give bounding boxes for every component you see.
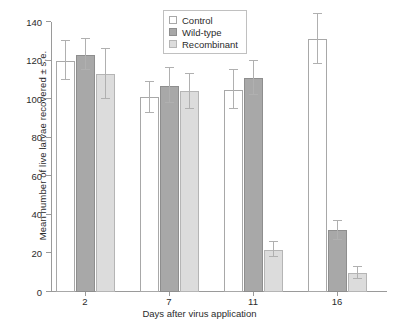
legend-label: Recombinant — [182, 39, 238, 50]
bar-control-day-16 — [308, 39, 327, 292]
error-bar-wildtype-day-7 — [169, 68, 170, 103]
error-cap — [81, 69, 90, 70]
error-bar-control-day-11 — [233, 70, 234, 109]
error-cap — [61, 40, 70, 41]
legend-swatch-icon — [169, 40, 177, 48]
y-tick: 20 — [46, 252, 51, 253]
error-bar-wildtype-day-11 — [253, 61, 254, 96]
error-cap — [313, 63, 322, 64]
y-tick: 140 — [46, 21, 51, 22]
error-cap — [185, 73, 194, 74]
bar-control-day-2 — [56, 61, 75, 292]
error-cap — [229, 69, 238, 70]
error-bar-control-day-2 — [65, 41, 66, 80]
x-tick-label: 11 — [248, 296, 258, 307]
legend-swatch-icon — [169, 16, 177, 24]
legend-item-wildtype: Wild-type — [169, 26, 238, 38]
legend: ControlWild-typeRecombinant — [163, 10, 247, 54]
error-cap — [249, 60, 258, 61]
bar-control-day-7 — [140, 97, 159, 292]
error-bar-control-day-16 — [317, 14, 318, 64]
legend-label: Control — [182, 15, 213, 26]
y-tick-label: 40 — [31, 209, 42, 220]
y-axis-spine — [51, 22, 52, 292]
bar-wildtype-day-2 — [76, 55, 95, 292]
legend-item-recombinant: Recombinant — [169, 38, 238, 50]
bar-recombinant-day-7 — [180, 91, 199, 292]
legend-item-control: Control — [169, 14, 238, 26]
y-tick-label: 20 — [31, 247, 42, 258]
error-cap — [269, 241, 278, 242]
error-bar-wildtype-day-2 — [85, 39, 86, 70]
y-tick: 100 — [46, 98, 51, 99]
y-tick-label: 80 — [31, 132, 42, 143]
error-cap — [145, 81, 154, 82]
error-cap — [185, 108, 194, 109]
error-cap — [333, 220, 342, 221]
error-bar-recombinant-day-11 — [273, 242, 274, 257]
error-cap — [353, 278, 362, 279]
y-tick: 60 — [46, 175, 51, 176]
legend-swatch-icon — [169, 28, 177, 36]
error-cap — [101, 98, 110, 99]
x-tick-label: 2 — [82, 296, 87, 307]
x-axis-title: Days after virus application — [0, 308, 399, 319]
error-cap — [81, 38, 90, 39]
y-tick-label: 0 — [37, 286, 42, 297]
y-tick: 120 — [46, 60, 51, 61]
plot-area: 020406080100120140 271116 — [51, 22, 387, 292]
x-tick-label: 16 — [332, 296, 343, 307]
error-cap — [229, 108, 238, 109]
bar-control-day-11 — [224, 90, 243, 293]
bar-wildtype-day-7 — [160, 86, 179, 292]
x-tick-label: 7 — [166, 296, 171, 307]
error-cap — [313, 13, 322, 14]
error-bar-recombinant-day-2 — [105, 49, 106, 99]
error-cap — [101, 48, 110, 49]
y-tick: 40 — [46, 214, 51, 215]
error-cap — [61, 79, 70, 80]
legend-label: Wild-type — [182, 27, 222, 38]
error-cap — [333, 239, 342, 240]
y-tick-label: 120 — [26, 55, 42, 66]
bar-wildtype-day-11 — [244, 78, 263, 292]
y-tick-label: 140 — [26, 16, 42, 27]
bar-chart-figure: Mean number of live larvae recovered ± s… — [0, 0, 399, 329]
error-bar-wildtype-day-16 — [337, 221, 338, 240]
error-cap — [249, 94, 258, 95]
y-tick: 80 — [46, 137, 51, 138]
error-cap — [165, 102, 174, 103]
y-tick-label: 60 — [31, 170, 42, 181]
y-tick-label: 100 — [26, 93, 42, 104]
y-tick: 0 — [46, 291, 51, 292]
error-bar-control-day-7 — [149, 82, 150, 113]
error-cap — [165, 67, 174, 68]
error-cap — [269, 256, 278, 257]
error-cap — [145, 112, 154, 113]
error-cap — [353, 266, 362, 267]
error-bar-recombinant-day-7 — [189, 74, 190, 109]
bar-recombinant-day-2 — [96, 74, 115, 292]
